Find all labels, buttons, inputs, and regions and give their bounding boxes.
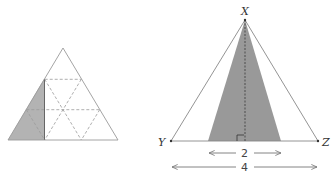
left-triangle-figure [8, 48, 118, 140]
vertex-z-point [317, 140, 319, 142]
vertex-x-point [244, 19, 246, 21]
vertex-label-y: Y [158, 137, 165, 148]
diagram-canvas [0, 0, 334, 179]
inner-width-label: 2 [239, 148, 250, 159]
outer-width-label: 4 [239, 162, 250, 173]
vertex-y-point [170, 140, 172, 142]
vertex-label-z: Z [322, 137, 330, 148]
right-triangle-figure [170, 19, 319, 167]
right-shaded-triangle [208, 20, 281, 141]
vertex-label-x: X [241, 6, 249, 17]
